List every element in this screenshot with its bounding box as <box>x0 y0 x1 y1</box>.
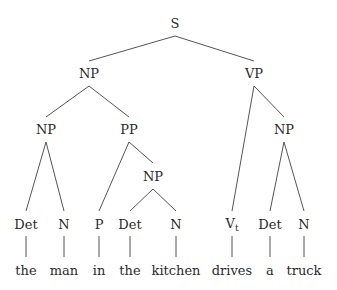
word-man: man <box>50 264 78 277</box>
node-np-inner: NP <box>36 123 56 136</box>
word-the-2: the <box>119 264 140 277</box>
word-truck: truck <box>287 264 322 277</box>
node-vp: VP <box>245 67 263 80</box>
node-vt-label: V <box>225 216 234 231</box>
word-a: a <box>266 264 274 277</box>
word-kitchen: kitchen <box>152 264 201 277</box>
node-np-object: NP <box>274 123 294 136</box>
edge-np-n <box>46 142 64 211</box>
edge-pp-np <box>129 142 153 163</box>
node-n-1: N <box>58 218 69 231</box>
edge-vp-vt <box>232 86 254 211</box>
word-drives: drives <box>212 264 252 277</box>
edge-npobj-det <box>270 142 284 211</box>
node-s: S <box>171 17 180 30</box>
node-det-2: Det <box>118 218 141 231</box>
edge-np-pp <box>89 86 129 117</box>
edge-npobj-n <box>284 142 304 211</box>
word-in: in <box>93 264 106 277</box>
edge-nppp-det <box>130 189 153 211</box>
word-the-1: the <box>15 264 36 277</box>
node-det-3: Det <box>258 218 281 231</box>
edge-s-np <box>89 36 175 61</box>
node-p: P <box>95 218 104 231</box>
node-np-pp: NP <box>143 170 163 183</box>
node-n-2: N <box>170 218 181 231</box>
edge-vp-np <box>254 86 284 117</box>
edge-np-det <box>26 142 46 211</box>
node-vt-subscript: t <box>235 223 239 233</box>
node-n-3: N <box>298 218 309 231</box>
edge-nppp-n <box>153 189 176 211</box>
node-det-1: Det <box>14 218 37 231</box>
tree-edges <box>0 0 337 290</box>
edge-s-vp <box>175 36 254 61</box>
node-pp: PP <box>120 123 138 136</box>
edge-np-np <box>46 86 89 117</box>
edge-pp-p <box>99 142 129 211</box>
node-np-subject: NP <box>79 67 99 80</box>
node-vt: Vt <box>225 217 238 233</box>
